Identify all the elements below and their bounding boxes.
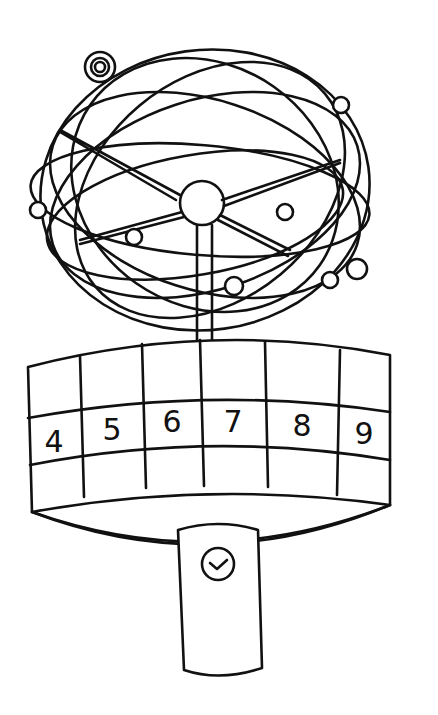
sun-hub [180,181,224,225]
orbit-rings [21,6,395,370]
drum-number: 6 [162,404,181,439]
orrery-illustration: 4 5 6 7 8 9 [0,0,438,715]
drum-number: 5 [102,412,121,447]
orrery-stem [197,225,212,340]
drum-number: 7 [223,404,242,439]
drum-number: 8 [292,408,311,443]
clock-pedestal [178,524,262,676]
drum-number: 9 [354,416,373,451]
drum-number: 4 [44,424,63,459]
calendar-drum: 4 5 6 7 8 9 [28,340,390,544]
